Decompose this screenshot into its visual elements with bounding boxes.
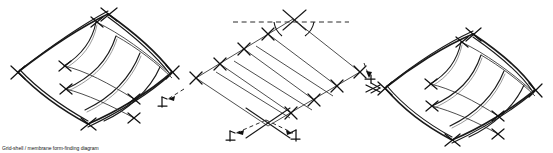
right-direction-marker — [364, 63, 375, 83]
right-shell-longitudinal-lines — [430, 42, 535, 134]
center-grid-family-b — [216, 46, 333, 118]
left-shell-longitudinal-lines — [64, 22, 172, 118]
center-grid-outline — [196, 19, 360, 126]
center-base-cross — [246, 108, 290, 138]
right-shell-perspective — [378, 28, 542, 146]
left-shell-ribs — [64, 22, 160, 121]
center-planar-grid — [190, 10, 366, 138]
line-drawing-canvas: Grid-shell / membrane form-finding diagr… — [0, 0, 553, 153]
right-panel-edge-marker — [366, 83, 380, 93]
center-grid-family-a — [220, 34, 337, 113]
technical-drawing-figure: Grid-shell / membrane form-finding diagr… — [0, 0, 553, 153]
left-shell-perspective — [11, 8, 179, 130]
figure-caption: Grid-shell / membrane form-finding diagr… — [2, 145, 99, 151]
lower-right-direction-marker — [266, 120, 300, 141]
left-direction-marker — [158, 89, 184, 107]
angle-arcs — [274, 22, 314, 36]
